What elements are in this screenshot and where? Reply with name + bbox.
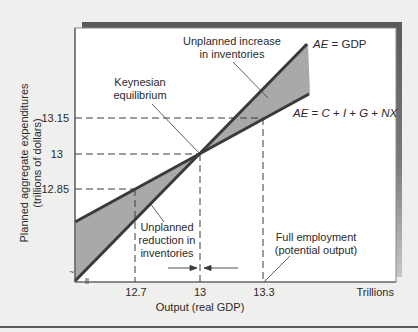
annotation-reduction-l2: reduction in (139, 234, 196, 246)
y-tick-13: 13 (51, 148, 63, 160)
annotation-reduction-l1: Unplanned (140, 221, 193, 233)
y-tick-13-15: 13.15 (41, 112, 69, 124)
annotation-fullemp-l2: (potential output) (275, 244, 358, 256)
x-tick-13-3: 13.3 (253, 286, 274, 298)
x-tick-12-7: 12.7 (125, 286, 146, 298)
annotation-increase-l1: Unplanned increase (183, 35, 281, 47)
x-tick-13: 13 (194, 286, 206, 298)
annotation-increase-l2: in inventories (200, 48, 265, 60)
annotation-keynesian-l1: Keynesian (114, 76, 165, 88)
y-tick-12-85: 12.85 (41, 183, 69, 195)
x-unit-label: Trillions (357, 286, 395, 298)
annotation-fullemp-l1: Full employment (276, 231, 357, 243)
label-ae-gdp: AE = GDP (312, 38, 367, 50)
frame-shadow-right (396, 22, 402, 277)
y-axis-title-line2: (trillions of dollars) (31, 118, 43, 207)
y-axis-break-icon: ~ (69, 267, 74, 277)
x-axis-title: Output (real GDP) (156, 301, 245, 313)
ae-gdp-chart: ~ 13.15 13 12.85 12.7 13 13.3 Trillions … (0, 0, 418, 332)
y-axis-title-line1: Planned aggregate expenditures (18, 83, 30, 243)
annotation-reduction-l3: inventories (140, 247, 194, 259)
label-ae-c-i-g-nx: AE = C + I + G + NX (292, 107, 399, 119)
annotation-keynesian-l2: equilibrium (113, 89, 166, 101)
